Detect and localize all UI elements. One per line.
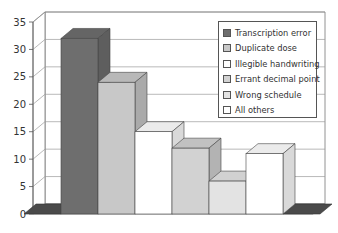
legend-label: Wrong schedule [235,90,301,100]
bar-front [209,181,246,214]
legend-label: Transcription error [235,28,311,38]
legend-item: Wrong schedule [223,87,316,103]
legend: Transcription error Duplicate dose Illeg… [218,21,317,118]
legend-swatch [223,29,231,37]
bar-front [98,82,135,214]
legend-swatch [223,91,231,99]
tick-label: 10 [13,154,26,165]
bar-side [283,144,295,214]
bar [246,144,295,214]
bar-front [61,38,98,214]
tick-label: 5 [20,181,26,192]
legend-label: Errant decimal point [235,74,320,84]
tick-label: 15 [13,126,26,137]
bar-front [135,132,172,214]
tick-label: 30 [13,44,26,55]
legend-label: Duplicate dose [235,43,297,53]
legend-swatch [223,44,231,52]
legend-label: Illegible handwriting [235,59,320,69]
legend-label: All others [235,105,274,115]
legend-item: All others [223,103,316,119]
legend-swatch [223,106,231,114]
side-wall [33,12,45,214]
y-axis: 05101520253035 [13,17,33,220]
legend-item: Transcription error [223,25,316,41]
tick-label: 20 [13,99,26,110]
legend-item: Illegible handwriting [223,56,316,72]
legend-swatch [223,75,231,83]
legend-item: Errant decimal point [223,72,316,88]
tick-label: 25 [13,71,26,82]
legend-swatch [223,60,231,68]
legend-item: Duplicate dose [223,41,316,57]
bar-front [172,148,209,214]
tick-label: 35 [13,17,26,28]
bar-front [246,154,283,214]
